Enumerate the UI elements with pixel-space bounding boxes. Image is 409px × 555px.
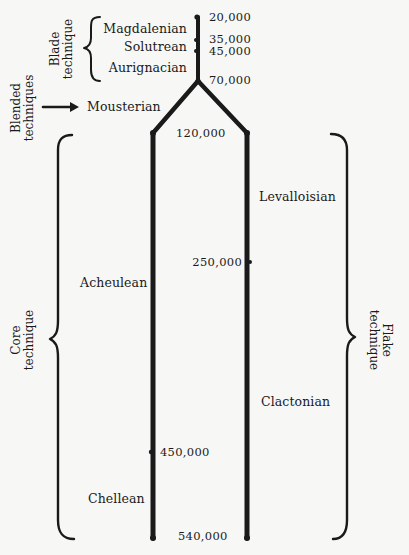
tick-540000-right — [244, 535, 250, 541]
blended-techniques-label: Blended techniques — [10, 75, 36, 142]
tick-20000 — [194, 14, 199, 19]
flake-label-line2: technique — [367, 310, 380, 370]
industry-magdalenian: Magdalenian — [103, 22, 187, 36]
industry-acheulean: Acheulean — [80, 276, 147, 290]
tick-35000 — [194, 38, 198, 42]
date-540000: 540,000 — [178, 530, 228, 543]
blade-technique-label: Blade technique — [49, 19, 75, 79]
blended-arrow-head — [70, 102, 79, 112]
timeline-lines — [0, 0, 409, 555]
industry-mousterian: Mousterian — [87, 100, 161, 114]
industry-chellean: Chellean — [88, 492, 145, 506]
tick-540000-left — [150, 535, 156, 541]
date-120000: 120,000 — [176, 127, 226, 140]
industry-levalloisian: Levalloisian — [259, 190, 336, 204]
core-label-line2: technique — [23, 310, 36, 370]
date-20000: 20,000 — [209, 11, 251, 24]
blended-label-line2: techniques — [23, 75, 36, 142]
technique-timeline-diagram: Blade technique Blended techniques Core … — [0, 0, 409, 555]
core-technique-label: Core technique — [10, 310, 36, 370]
tick-450000 — [149, 450, 153, 454]
tick-250000 — [248, 260, 252, 264]
flake-technique-label: Flake technique — [367, 310, 393, 370]
tick-45000 — [194, 49, 198, 53]
industry-clactonian: Clactonian — [261, 395, 330, 409]
industry-solutrean: Solutrean — [124, 40, 187, 54]
tick-70000 — [195, 78, 200, 83]
flake-label-line1: Flake — [380, 310, 393, 370]
date-45000: 45,000 — [209, 45, 251, 58]
tick-120000-right — [244, 130, 250, 136]
blade-label-line2: technique — [62, 19, 75, 79]
date-450000: 450,000 — [160, 446, 210, 459]
industry-aurignacian: Aurignacian — [109, 61, 187, 75]
core-technique-brace — [50, 135, 74, 539]
blade-technique-brace — [84, 17, 100, 81]
date-250000: 250,000 — [192, 256, 242, 269]
tick-120000-left — [150, 130, 156, 136]
date-70000: 70,000 — [209, 74, 251, 87]
